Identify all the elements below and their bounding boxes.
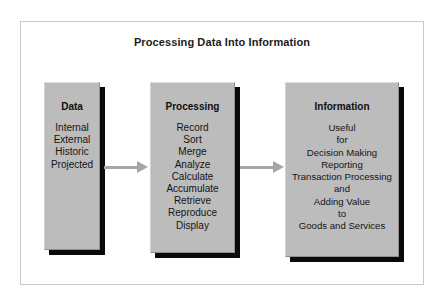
box-face-processing: Processing Record Sort Merge Analyze Cal… (150, 82, 235, 253)
box-item: Goods and Services (286, 220, 398, 232)
box-item: Internal (45, 122, 99, 134)
box-item: Sort (151, 134, 234, 146)
arrow-head-icon (137, 161, 148, 173)
box-items-data: Internal External Historic Projected (45, 122, 99, 171)
box-item: Reporting (286, 159, 398, 171)
box-item: Historic (45, 146, 99, 158)
box-item: Transaction Processing (286, 171, 398, 183)
box-item: and (286, 183, 398, 195)
box-item: Merge (151, 146, 234, 158)
box-item: Accumulate (151, 183, 234, 195)
box-item: Adding Value (286, 196, 398, 208)
process-box-processing[interactable]: Processing Record Sort Merge Analyze Cal… (150, 82, 235, 253)
arrow-data-to-processing (104, 161, 148, 173)
box-heading-information: Information (286, 101, 398, 113)
arrow-processing-to-information (240, 161, 284, 173)
box-item: Reproduce (151, 207, 234, 219)
box-item: to (286, 208, 398, 220)
box-items-information: Useful for Decision Making Reporting Tra… (286, 122, 398, 233)
box-face-information: Information Useful for Decision Making R… (285, 82, 399, 257)
box-item: Useful (286, 122, 398, 134)
diagram-canvas: Processing Data Into Information Data In… (0, 0, 444, 304)
process-box-data[interactable]: Data Internal External Historic Projecte… (44, 82, 100, 250)
arrow-shaft (240, 166, 273, 169)
box-item: External (45, 134, 99, 146)
box-item: Projected (45, 159, 99, 171)
box-content-information: Information Useful for Decision Making R… (286, 101, 398, 233)
box-item: Calculate (151, 171, 234, 183)
arrow-shaft (104, 166, 137, 169)
box-item: Display (151, 220, 234, 232)
box-item: Retrieve (151, 195, 234, 207)
box-item: Analyze (151, 159, 234, 171)
box-item: for (286, 134, 398, 146)
process-box-information[interactable]: Information Useful for Decision Making R… (285, 82, 399, 257)
box-content-data: Data Internal External Historic Projecte… (45, 101, 99, 171)
box-heading-processing: Processing (151, 101, 234, 113)
box-items-processing: Record Sort Merge Analyze Calculate Accu… (151, 122, 234, 232)
arrow-head-icon (273, 161, 284, 173)
box-item: Record (151, 122, 234, 134)
box-heading-data: Data (45, 101, 99, 113)
box-face-data: Data Internal External Historic Projecte… (44, 82, 100, 250)
box-content-processing: Processing Record Sort Merge Analyze Cal… (151, 101, 234, 232)
page-title: Processing Data Into Information (0, 36, 444, 48)
box-item: Decision Making (286, 147, 398, 159)
